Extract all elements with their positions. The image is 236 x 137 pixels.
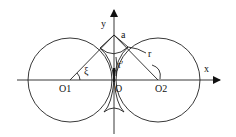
y-axis-label: y bbox=[101, 18, 106, 29]
angle-o2-arc bbox=[152, 65, 160, 79]
point-a-label: a bbox=[121, 29, 126, 40]
angle-xi-arc bbox=[77, 73, 80, 80]
line-peak-to-o2 bbox=[114, 35, 158, 80]
o1-label: O1 bbox=[59, 83, 71, 94]
r-label: r bbox=[148, 48, 152, 59]
o2-label: O2 bbox=[155, 83, 167, 94]
r-prime-label: r' bbox=[118, 59, 123, 70]
origin-label: O bbox=[115, 83, 122, 94]
line-peak-to-left-intersection bbox=[100, 35, 114, 48]
xi-label: ξ bbox=[84, 65, 89, 77]
two-circles-diagram: y x a r r' ξ O1 O O2 bbox=[0, 0, 236, 137]
x-axis-label: x bbox=[204, 63, 209, 74]
